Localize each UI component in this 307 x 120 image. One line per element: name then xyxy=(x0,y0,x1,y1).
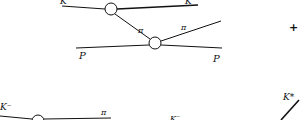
label-k-in: K xyxy=(59,0,68,6)
label-pi-out: π xyxy=(180,23,187,32)
k-star-line xyxy=(281,100,299,120)
pi-outgoing-line-bottom xyxy=(44,118,111,119)
feynman-diagram-canvas: K K π π P P + K⁻ π K⁻ K* xyxy=(0,0,307,120)
label-k-minus-mid: K⁻ xyxy=(169,114,180,120)
plus-operator: + xyxy=(289,21,298,34)
bottom-graph: K⁻ π K⁻ K* xyxy=(0,92,299,120)
label-p-in: P xyxy=(78,50,86,61)
label-k-out: K xyxy=(184,0,193,6)
label-pi-out-bottom: π xyxy=(100,108,107,117)
vertex-3-circle xyxy=(32,115,44,120)
p-outgoing-line xyxy=(161,45,222,48)
label-p-out: P xyxy=(212,53,220,64)
k-minus-incoming-line xyxy=(0,116,32,119)
label-pi-internal: π xyxy=(137,26,144,35)
vertex-2-circle xyxy=(149,37,161,49)
k-incoming-line xyxy=(62,6,105,9)
vertex-1-circle xyxy=(105,3,117,15)
pi-outgoing-line xyxy=(161,21,221,41)
top-graph: K K π π P P xyxy=(59,0,222,64)
label-k-minus-in: K⁻ xyxy=(0,102,12,112)
pi-internal-line xyxy=(115,14,150,39)
label-k-star: K* xyxy=(282,92,295,102)
p-incoming-line xyxy=(76,45,149,48)
